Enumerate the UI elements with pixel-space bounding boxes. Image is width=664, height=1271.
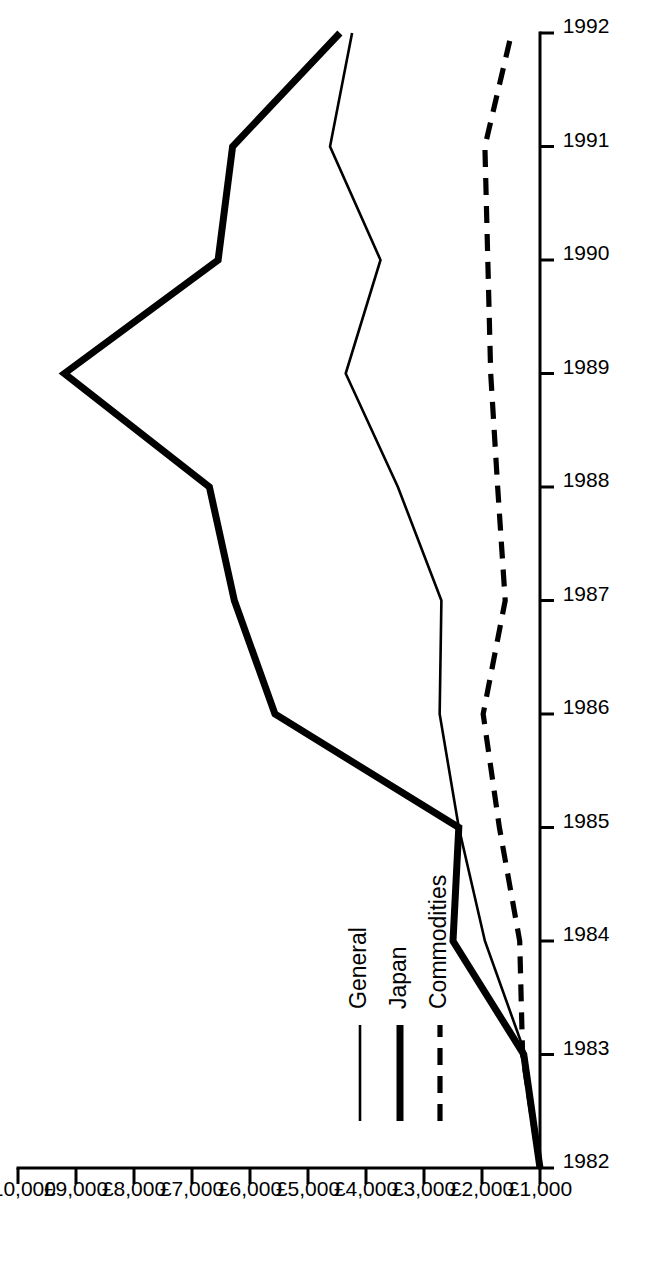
chart-page: 1982198319841985198619871988198919901991… bbox=[0, 0, 664, 1271]
y-tick-label: £7,000 bbox=[160, 1177, 224, 1200]
y-axis-tick-labels: £1,000£2,000£3,000£4,000£5,000£6,000£7,0… bbox=[0, 1177, 572, 1200]
legend-label: Commodities bbox=[425, 875, 451, 1009]
x-axis-ticks bbox=[540, 33, 554, 1168]
x-tick-label: 1990 bbox=[563, 241, 610, 264]
x-tick-label: 1986 bbox=[563, 695, 610, 718]
x-tick-label: 1983 bbox=[563, 1036, 610, 1059]
chart-legend: GeneralJapanCommodities bbox=[345, 875, 451, 1121]
y-tick-label: £4,000 bbox=[334, 1177, 398, 1200]
x-tick-label: 1991 bbox=[563, 128, 610, 151]
x-tick-label: 1988 bbox=[563, 468, 610, 491]
x-axis-tick-labels: 1982198319841985198619871988198919901991… bbox=[563, 14, 610, 1172]
x-tick-label: 1984 bbox=[563, 922, 610, 945]
y-tick-label: £6,000 bbox=[218, 1177, 282, 1200]
plot-area: 1982198319841985198619871988198919901991… bbox=[0, 0, 664, 1271]
y-tick-label: £5,000 bbox=[276, 1177, 340, 1200]
y-tick-label: £10,000 bbox=[0, 1177, 56, 1200]
y-tick-label: £8,000 bbox=[102, 1177, 166, 1200]
x-tick-label: 1989 bbox=[563, 355, 610, 378]
x-tick-label: 1982 bbox=[563, 1149, 610, 1172]
y-tick-label: £2,000 bbox=[450, 1177, 514, 1200]
x-tick-label: 1987 bbox=[563, 582, 610, 605]
legend-label: Japan bbox=[385, 946, 411, 1009]
x-tick-label: 1985 bbox=[563, 809, 610, 832]
x-tick-label: 1992 bbox=[563, 14, 610, 37]
y-tick-label: £3,000 bbox=[392, 1177, 456, 1200]
legend-label: General bbox=[345, 927, 371, 1009]
y-tick-label: £1,000 bbox=[508, 1177, 572, 1200]
rotated-figure-container: 1982198319841985198619871988198919901991… bbox=[0, 0, 664, 1271]
series-line-japan bbox=[64, 33, 540, 1168]
line-chart: 1982198319841985198619871988198919901991… bbox=[0, 0, 664, 1271]
